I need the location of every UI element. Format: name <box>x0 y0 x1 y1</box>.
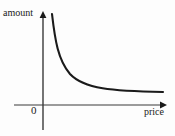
x-axis-label: price <box>144 106 164 117</box>
demand-curve-figure: amount price 0 <box>0 0 175 136</box>
demand-curve-path <box>52 14 163 92</box>
origin-label: 0 <box>31 104 37 116</box>
arrow-up-icon <box>40 11 47 18</box>
y-axis-label: amount <box>3 7 33 18</box>
